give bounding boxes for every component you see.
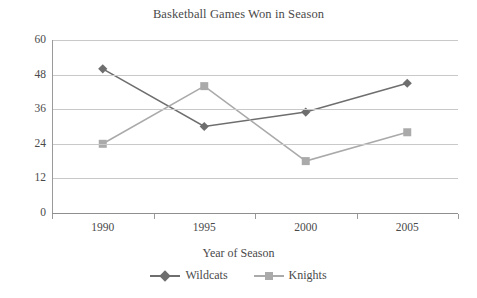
x-tick-label: 1990 (73, 221, 133, 233)
x-axis-line (52, 213, 458, 214)
x-tick (52, 214, 53, 219)
x-tick (154, 214, 155, 219)
gridline (52, 109, 458, 110)
y-tick-label: 0 (0, 206, 46, 218)
data-point-knights-2000 (302, 157, 310, 165)
gridline (52, 75, 458, 76)
chart-title: Basketball Games Won in Season (0, 7, 477, 22)
data-point-knights-1995 (200, 82, 208, 90)
data-point-wildcats-1995 (200, 122, 209, 131)
legend-swatch-icon (254, 270, 284, 282)
diamond-marker-icon (160, 270, 171, 281)
legend-label: Wildcats (185, 268, 227, 283)
x-tick (357, 214, 358, 219)
x-axis-title: Year of Season (0, 246, 477, 261)
y-tick-label: 24 (0, 137, 46, 149)
y-tick-label: 12 (0, 171, 46, 183)
series-line-knights (103, 86, 408, 161)
y-tick-label: 36 (0, 102, 46, 114)
square-marker-icon (265, 272, 273, 280)
legend-item-knights[interactable]: Knights (254, 268, 327, 283)
gridline (52, 40, 458, 41)
series-layer (52, 40, 458, 213)
data-point-wildcats-2005 (403, 79, 412, 88)
chart-container: Basketball Games Won in Season 012243648… (0, 0, 477, 298)
x-tick (255, 214, 256, 219)
chart-legend: WildcatsKnights (0, 268, 477, 283)
y-tick-label: 60 (0, 33, 46, 45)
x-tick-label: 2000 (276, 221, 336, 233)
gridline (52, 144, 458, 145)
x-tick-label: 1995 (174, 221, 234, 233)
legend-item-wildcats[interactable]: Wildcats (150, 268, 227, 283)
x-tick (458, 214, 459, 219)
x-tick-label: 2005 (377, 221, 437, 233)
data-point-wildcats-1990 (98, 64, 107, 73)
y-axis-line (52, 40, 53, 214)
data-point-knights-2005 (403, 128, 411, 136)
plot-area (52, 40, 458, 213)
legend-label: Knights (289, 268, 327, 283)
gridline (52, 178, 458, 179)
y-tick-label: 48 (0, 68, 46, 80)
legend-swatch-icon (150, 270, 180, 282)
